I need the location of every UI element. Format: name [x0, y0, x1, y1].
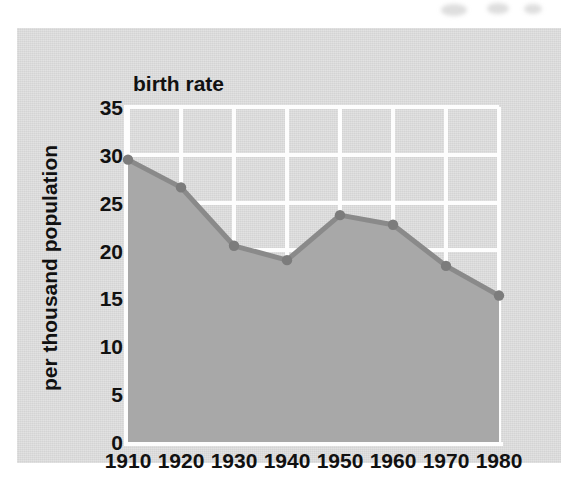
y-tick-label: 10 — [79, 336, 123, 357]
y-tick-label: 15 — [79, 288, 123, 309]
scan-artifact — [487, 3, 509, 14]
y-axis-ticks: 35 30 25 20 15 10 5 0 — [67, 107, 123, 442]
x-axis-ticks: 1910 1920 1930 1940 1950 1960 1970 1980 — [128, 450, 499, 480]
chart-panel: birth rate per thousand population 35 30… — [17, 28, 561, 463]
data-point-1910 — [123, 154, 133, 164]
y-tick-label: 20 — [79, 241, 123, 262]
chart-title: birth rate — [133, 72, 224, 96]
birth-rate-series — [128, 107, 499, 442]
y-axis-label: per thousand population — [38, 138, 62, 398]
chart-figure: birth rate per thousand population 35 30… — [0, 0, 584, 484]
data-point-1950 — [335, 210, 345, 220]
x-tick-label: 1980 — [454, 450, 544, 471]
y-tick-label: 5 — [79, 384, 123, 405]
data-point-1960 — [388, 220, 398, 230]
data-point-1940 — [282, 255, 292, 265]
data-point-1920 — [176, 182, 186, 192]
scan-artifact — [524, 4, 542, 14]
plot-area — [128, 107, 499, 442]
data-point-1930 — [229, 241, 239, 251]
data-point-1970 — [441, 261, 451, 271]
area-fill — [128, 160, 499, 442]
y-tick-label: 25 — [79, 193, 123, 214]
y-tick-label: 35 — [79, 97, 123, 118]
x-axis-line — [124, 442, 503, 446]
data-point-1980 — [494, 290, 504, 300]
y-tick-label: 30 — [79, 145, 123, 166]
scan-artifact — [441, 4, 467, 16]
